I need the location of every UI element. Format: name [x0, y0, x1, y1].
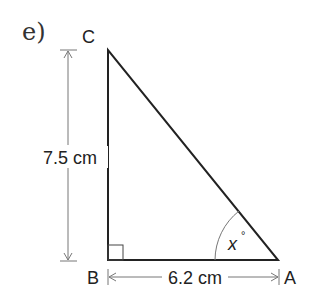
horizontal-length-label: 6.2 cm	[168, 268, 222, 288]
vertical-length-label: 7.5 cm	[43, 148, 97, 168]
problem-label: e)	[22, 18, 46, 46]
triangle-diagram: e) 7.5 cm 6.2 cm C B A x °	[0, 0, 310, 307]
right-triangle	[108, 50, 278, 260]
vertex-a-label: A	[284, 268, 296, 288]
vertex-b-label: B	[87, 268, 99, 288]
right-angle-marker	[108, 245, 123, 260]
vertex-c-label: C	[82, 27, 95, 47]
angle-label: x	[227, 234, 238, 254]
degree-symbol: °	[241, 229, 245, 241]
